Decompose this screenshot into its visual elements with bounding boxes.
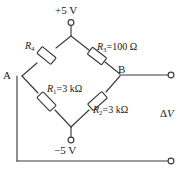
negative-supply-label: −5 V [54, 145, 76, 156]
output-voltage-label: ΔV [160, 108, 174, 119]
wire-apex-to-r4 [56, 36, 71, 48]
resistor-label-bottom-left: R1=3 kΩ [47, 84, 82, 96]
resistor-body-top-left [37, 46, 56, 64]
wire-node-a-to-r1 [22, 76, 38, 93]
circuit-diagram-figure: +5 V −5 V A B R4 R3=100 Ω R1=3 kΩ R2=3 k… [0, 0, 188, 175]
wire-r2-to-bottom-apex [71, 110, 89, 127]
wire-r1-to-bottom-apex [55, 110, 71, 127]
terminal-output-bottom [168, 158, 174, 164]
circuit-schematic-svg [0, 0, 188, 175]
resistor-value-bottom-left: =3 kΩ [57, 83, 83, 94]
resistor-label-top-left: R4 [25, 41, 35, 53]
resistor-value-top-right: =100 Ω [107, 41, 138, 52]
resistor-label-bottom-right: R2=3 kΩ [93, 105, 128, 117]
node-label-b: B [118, 64, 125, 75]
terminal-output-top [168, 72, 174, 78]
wire-r4-to-node-a [22, 63, 37, 76]
resistor-label-top-right: R3=100 Ω [97, 42, 137, 54]
positive-supply-label: +5 V [55, 5, 77, 16]
terminal-positive-supply [68, 20, 74, 26]
resistor-subscript-top-left: 4 [31, 45, 34, 52]
wire-node-b-to-r2 [106, 76, 120, 92]
terminal-negative-supply [68, 137, 74, 143]
wire-apex-to-r3 [71, 36, 89, 50]
node-label-a: A [3, 70, 11, 81]
voltage-variable: V [167, 107, 174, 119]
resistor-value-bottom-right: =3 kΩ [103, 104, 129, 115]
